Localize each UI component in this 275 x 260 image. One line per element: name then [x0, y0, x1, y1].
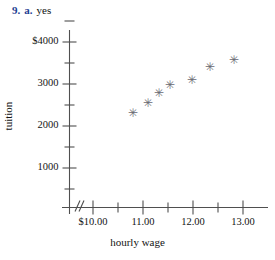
scatter-plot-figure: 9.a.yes $4000300020001000 $10.0011.0012.…	[0, 0, 275, 260]
plot-area: $4000300020001000 $10.0011.0012.0013.00 …	[0, 0, 275, 260]
data-point-marker: ✳	[128, 107, 138, 119]
y-axis-tick-label: 1000	[5, 161, 59, 172]
x-axis-tick-label: 13.00	[213, 216, 273, 227]
data-point-marker: ✳	[205, 61, 215, 73]
x-axis-title: hourly wage	[0, 236, 275, 248]
data-point-marker: ✳	[187, 74, 197, 86]
data-point-marker: ✳	[229, 54, 239, 66]
y-axis-tick-label: $4000	[5, 35, 59, 46]
data-point-marker: ✳	[143, 97, 153, 109]
data-point-marker: ✳	[154, 87, 164, 99]
data-point-marker: ✳	[165, 79, 175, 91]
y-axis-title: tuition	[2, 86, 14, 146]
